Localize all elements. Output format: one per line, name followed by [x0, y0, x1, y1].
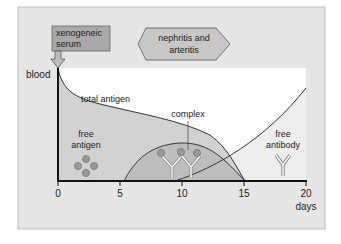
complex-label: complex [171, 109, 205, 119]
tick-10: 10 [176, 188, 188, 199]
tick-5: 5 [117, 188, 123, 199]
immune-complex-diagram: 0 5 10 15 20 days blood xenogeneic serum… [0, 0, 341, 244]
free-antibody-label-line1: free [275, 129, 291, 139]
free-antigen-label-line2: antigen [71, 140, 101, 150]
free-antibody-label-line2: antibody [266, 140, 301, 150]
serum-label-line2: serum [56, 39, 81, 49]
disease-label-line2: arteritis [169, 45, 199, 55]
y-axis-label: blood [26, 69, 50, 80]
total-antigen-label: total antigen [81, 94, 130, 104]
disease-label-line1: nephritis and [158, 33, 210, 43]
tick-20: 20 [300, 188, 312, 199]
free-antigen-label-line1: free [78, 129, 94, 139]
x-axis-label: days [295, 201, 316, 212]
serum-label-line1: xenogeneic [56, 28, 103, 38]
tick-0: 0 [55, 188, 61, 199]
tick-15: 15 [238, 188, 250, 199]
